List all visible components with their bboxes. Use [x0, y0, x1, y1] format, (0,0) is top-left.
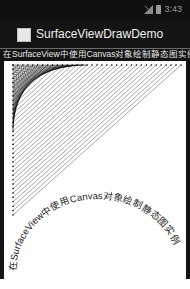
- arc-text: 在SurfaceView中使用Canvas对象绘制静态图实例: [7, 190, 183, 271]
- battery-icon: [156, 5, 161, 14]
- app-icon[interactable]: [17, 28, 31, 42]
- string-art-drawing: 在SurfaceView中使用Canvas对象绘制静态图实例: [4, 61, 186, 275]
- status-icons: 3:43: [144, 4, 182, 14]
- surface-view-frame: 在SurfaceView中使用Canvas对象绘制静态图实例: [0, 61, 190, 279]
- app-title: SurfaceViewDrawDemo: [36, 27, 163, 41]
- clock: 3:43: [164, 4, 182, 14]
- surface-view-canvas[interactable]: 在SurfaceView中使用Canvas对象绘制静态图实例: [4, 61, 186, 279]
- subtitle-text: 在SurfaceView中使用Canvas对象绘制静态图实例: [0, 49, 190, 61]
- status-bar: 3:43: [0, 0, 190, 20]
- signal-icon: [144, 5, 153, 14]
